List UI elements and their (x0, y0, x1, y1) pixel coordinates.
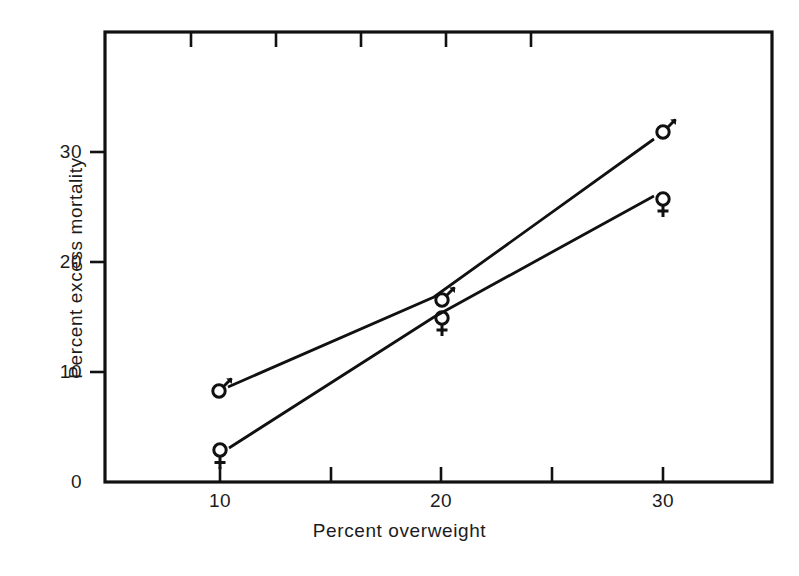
line-series-women (229, 196, 654, 448)
male-symbol-icon-x30 (657, 119, 676, 138)
markers-series-women (214, 193, 669, 469)
chart-figure: 10 20 30 0 10 20 30 Percent overweight P… (0, 0, 799, 576)
x-axis-ticks (220, 467, 663, 482)
male-symbol-circle (213, 385, 225, 397)
female-symbol-icon-x30 (657, 193, 669, 217)
x-tick-label-30: 30 (652, 490, 674, 512)
female-symbol-icon-x20 (436, 312, 448, 336)
markers-series-men (213, 119, 676, 397)
male-symbol-circle (436, 294, 448, 306)
male-symbol-circle (657, 126, 669, 138)
plot-canvas (0, 0, 799, 576)
x-tick-label-10: 10 (209, 490, 231, 512)
x-axis-top-ticks (191, 32, 531, 47)
line-series-men (228, 139, 654, 387)
female-symbol-circle (214, 444, 226, 456)
axes-box (105, 32, 772, 482)
x-axis-title: Percent overweight (0, 520, 799, 542)
y-axis-title: Percent excess mortality (65, 38, 87, 498)
y-axis-ticks (90, 152, 105, 372)
x-tick-label-20: 20 (430, 490, 452, 512)
female-symbol-icon-x10 (214, 444, 226, 469)
female-symbol-circle (657, 193, 669, 205)
plot-frame (105, 32, 772, 482)
